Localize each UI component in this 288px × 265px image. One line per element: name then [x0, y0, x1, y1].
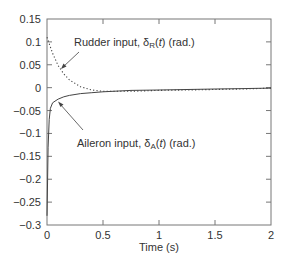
- x-tick-label: 0.5: [95, 229, 110, 241]
- y-tick-label: −0.1: [19, 127, 41, 139]
- axis-ticks: [47, 19, 271, 225]
- y-tick-label: −0.15: [13, 150, 41, 162]
- y-tick-label: 0.1: [26, 36, 41, 48]
- x-tick-label: 1.5: [207, 229, 222, 241]
- rudder-arrow: [63, 52, 79, 67]
- x-tick-label: 2: [268, 229, 274, 241]
- y-tick-label: −0.25: [13, 196, 41, 208]
- aileron-arrow: [60, 104, 83, 130]
- annotation-arrows: [58, 52, 83, 130]
- y-tick-label: −0.3: [19, 219, 41, 231]
- y-tick-label: 0.15: [20, 13, 41, 25]
- x-tick-label: 1: [156, 229, 162, 241]
- y-tick-label: −0.05: [13, 105, 41, 117]
- y-tick-label: −0.2: [19, 173, 41, 185]
- aileron-arrowhead-icon: [58, 102, 64, 108]
- y-tick-label: 0.05: [20, 59, 41, 71]
- aileron-annotation: Aileron input, δA(t) (rad.): [77, 137, 195, 151]
- x-tick-label: 0: [44, 229, 50, 241]
- y-tick-label: 0: [35, 82, 41, 94]
- plot-frame: [47, 19, 271, 225]
- data-series: [47, 37, 271, 216]
- rudder-annotation: Rudder input, δR(t) (rad.): [74, 36, 195, 50]
- x-axis-title: Time (s): [139, 241, 179, 253]
- aileron-series-line: [47, 88, 271, 216]
- chart: 00.511.520.150.10.050−0.05−0.1−0.15−0.2−…: [0, 0, 288, 265]
